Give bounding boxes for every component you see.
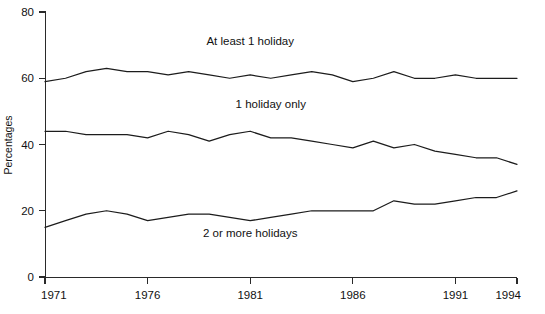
y-axis-tick-labels: 020406080	[21, 6, 34, 283]
chart-plot-area: 020406080 197119761981198619911994 At le…	[0, 0, 545, 314]
data-series-group	[45, 68, 517, 227]
x-tick-label-1981: 1981	[237, 289, 263, 301]
y-tick-label-20: 20	[21, 205, 34, 217]
x-axis-group: 197119761981198619911994	[41, 278, 522, 302]
x-axis-tick-labels: 197119761981198619911994	[41, 289, 522, 301]
y-tick-label-80: 80	[21, 6, 34, 18]
x-tick-label-1971: 1971	[41, 289, 67, 301]
holiday-percentages-line-chart: 020406080 197119761981198619911994 At le…	[0, 0, 545, 314]
y-tick-label-40: 40	[21, 139, 34, 151]
x-tick-label-1994: 1994	[495, 289, 521, 301]
series-label-0: At least 1 holiday	[206, 35, 294, 47]
series-label-1: 1 holiday only	[236, 98, 307, 110]
series-line-1	[45, 131, 517, 164]
y-tick-label-60: 60	[21, 72, 34, 84]
series-line-0	[45, 68, 517, 81]
series-label-2: 2 or more holidays	[203, 227, 298, 239]
x-tick-label-1976: 1976	[135, 289, 161, 301]
series-line-2	[45, 191, 517, 227]
series-annotation-labels: At least 1 holiday1 holiday only2 or mor…	[203, 35, 306, 239]
y-axis-ticks	[39, 12, 46, 277]
x-tick-label-1991: 1991	[443, 289, 469, 301]
y-axis-group: 020406080	[21, 6, 45, 283]
y-axis-title: Percentages	[2, 116, 14, 175]
x-tick-label-1986: 1986	[340, 289, 366, 301]
x-axis-ticks	[45, 278, 517, 285]
y-tick-label-0: 0	[28, 271, 34, 283]
